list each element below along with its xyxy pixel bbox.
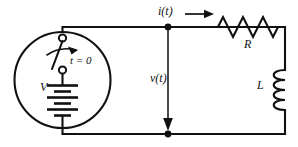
source-label: V [40,81,47,93]
switch-blade [52,41,63,69]
switch-time-label: t = 0 [70,55,91,66]
wire-bottom [63,128,286,134]
switch-lower-terminal [59,66,66,73]
wire-top [63,27,286,32]
current-arrow-head [204,10,214,18]
inductor-symbol [274,70,285,112]
voltage-arrow-head [163,118,173,131]
circuit-diagram-canvas: i(t) v(t) R L V t = 0 [0,0,298,147]
bottom-junction-node [165,131,172,138]
voltage-label: v(t) [150,72,167,84]
top-junction-node [165,24,172,31]
current-label: i(t) [158,5,173,17]
inductor-label: L [257,79,264,91]
resistor-label: R [244,38,251,50]
circuit-schematic [0,0,298,147]
